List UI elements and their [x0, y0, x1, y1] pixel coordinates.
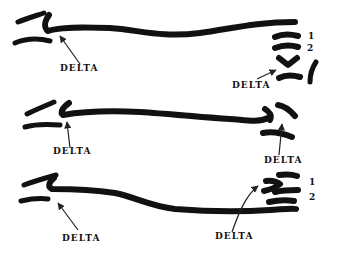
- row-3-left-delta-label: DELTA: [62, 233, 100, 243]
- row-1-right-arrow-icon: [257, 70, 276, 79]
- row-1-right-bar-2: [275, 46, 298, 48]
- row-1-main-channel: [45, 15, 295, 35]
- row-1-number-2: 2: [307, 43, 313, 53]
- row-1-right-side-stroke: [310, 62, 316, 82]
- row-3-left-arrow-icon: [58, 203, 78, 230]
- row-1-number-1: 1: [308, 31, 314, 41]
- row-3-right-bar-2: [269, 200, 294, 202]
- row-1-right-delta-label: DELTA: [232, 80, 270, 90]
- row-2-left-upper-distributary: [27, 102, 54, 114]
- row-3-number-2: 2: [309, 192, 315, 202]
- row-2-main-channel: [62, 103, 268, 121]
- row-3-main-channel: [49, 178, 296, 211]
- row-3-right-delta-label: DELTA: [215, 231, 253, 241]
- row-1-right-bar-1: [275, 35, 298, 37]
- delta-diagram: [0, 0, 338, 258]
- row-3-right-bar-1: [275, 190, 298, 192]
- row-1-left-arrow-icon: [60, 36, 80, 64]
- row-2-left-arrow-icon: [67, 122, 70, 148]
- row-2-left-lower-distributary: [25, 124, 60, 127]
- row-1-right-bar-3: [279, 76, 300, 78]
- row-1-left-delta-label: DELTA: [60, 63, 98, 73]
- row-1-left-lower-distributary: [15, 39, 50, 43]
- row-3-number-1: 1: [309, 177, 315, 187]
- row-2-right-lower-bar: [263, 132, 292, 137]
- row-2-right-arrow-icon: [279, 124, 282, 155]
- row-3-strokes: [21, 175, 298, 212]
- row-2-right-top-bar: [278, 105, 295, 116]
- row-2-strokes: [25, 102, 295, 137]
- row-1-right-chevron: [279, 58, 297, 65]
- row-3-left-lower-distributary: [21, 199, 48, 201]
- row-2-right-delta-label: DELTA: [264, 155, 302, 165]
- row-1-left-upper-distributary: [18, 13, 44, 22]
- row-3-right-top-bar: [279, 175, 297, 176]
- row-2-left-delta-label: DELTA: [53, 146, 91, 156]
